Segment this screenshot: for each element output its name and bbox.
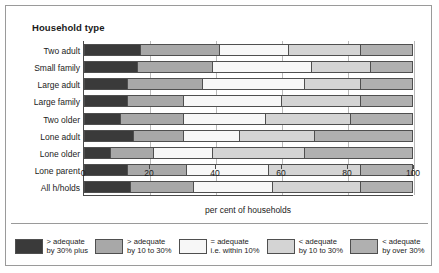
- legend-label: < adequateby over 30%: [382, 237, 424, 256]
- legend-item[interactable]: < adequateby over 30%: [350, 237, 424, 256]
- bar-segment[interactable]: [314, 130, 413, 142]
- x-axis-tick-label: 20: [144, 168, 153, 178]
- bar-segment[interactable]: [304, 147, 413, 159]
- y-axis-labels: Two adultSmall familyLarge adultLarge fa…: [10, 41, 80, 196]
- x-axis-tick-label: 0: [81, 168, 86, 178]
- bar-segment[interactable]: [370, 61, 413, 73]
- bar-segment[interactable]: [127, 78, 203, 90]
- legend-swatch: [267, 239, 295, 254]
- legend-item[interactable]: > adequateby 10 to 30%: [95, 237, 171, 256]
- bar-segment[interactable]: [84, 164, 127, 176]
- bar-segment[interactable]: [120, 113, 183, 125]
- bar-segment[interactable]: [239, 130, 315, 142]
- x-axis-tick-label: 40: [210, 168, 219, 178]
- y-axis-tick-label: Large family: [10, 97, 80, 107]
- chart-legend: > adequateby 30% plus> adequateby 10 to …: [11, 223, 428, 262]
- legend-item[interactable]: = adequatei.e. within 10%: [179, 237, 260, 256]
- bar-segment[interactable]: [360, 78, 413, 90]
- x-axis-tick-label: 80: [342, 168, 351, 178]
- bar-segment[interactable]: [288, 44, 360, 56]
- bar-segment[interactable]: [84, 113, 120, 125]
- bar-row[interactable]: [84, 95, 413, 107]
- legend-item[interactable]: > adequateby 30% plus: [15, 237, 88, 256]
- bar-row[interactable]: [84, 130, 413, 142]
- bar-segment[interactable]: [265, 113, 351, 125]
- y-axis-tick-label: Two older: [10, 115, 80, 125]
- bar-segment[interactable]: [212, 61, 311, 73]
- bar-segment[interactable]: [84, 78, 127, 90]
- bar-segment[interactable]: [127, 164, 186, 176]
- bar-segment[interactable]: [350, 113, 413, 125]
- bar-segment[interactable]: [202, 78, 304, 90]
- bar-segment[interactable]: [272, 181, 361, 193]
- bar-segment[interactable]: [304, 78, 360, 90]
- bar-segment[interactable]: [84, 61, 137, 73]
- y-axis-tick-label: Small family: [10, 63, 80, 73]
- bar-segment[interactable]: [84, 130, 133, 142]
- plot-area: [83, 41, 413, 196]
- y-axis-tick-label: Lone older: [10, 149, 80, 159]
- x-axis-tick-label: 100: [406, 168, 420, 178]
- x-axis-tick-label: 60: [276, 168, 285, 178]
- bar-segment[interactable]: [110, 147, 153, 159]
- chart-frame: Household type Two adultSmall familyLarg…: [5, 5, 432, 266]
- bar-segment[interactable]: [183, 130, 239, 142]
- bar-row[interactable]: [84, 164, 413, 176]
- bar-segment[interactable]: [219, 44, 288, 56]
- bar-segment[interactable]: [183, 113, 265, 125]
- bar-segment[interactable]: [311, 61, 370, 73]
- bar-segment[interactable]: [137, 61, 213, 73]
- bar-row[interactable]: [84, 181, 413, 193]
- bar-row[interactable]: [84, 113, 413, 125]
- page-title: Household type: [32, 22, 105, 33]
- y-axis-tick-label: Lone adult: [10, 132, 80, 142]
- y-axis-tick-label: All h/holds: [10, 183, 80, 193]
- bar-segment[interactable]: [127, 95, 183, 107]
- bar-segment[interactable]: [193, 181, 272, 193]
- y-axis-tick-label: Lone parent: [10, 166, 80, 176]
- bar-segment[interactable]: [84, 95, 127, 107]
- bar-segment[interactable]: [140, 44, 219, 56]
- bar-row[interactable]: [84, 147, 413, 159]
- bar-segment[interactable]: [84, 44, 140, 56]
- bar-segment[interactable]: [281, 95, 360, 107]
- bar-row[interactable]: [84, 78, 413, 90]
- bar-segment[interactable]: [183, 95, 282, 107]
- legend-items: > adequateby 30% plus> adequateby 10 to …: [11, 231, 428, 261]
- y-axis-tick-label: Large adult: [10, 80, 80, 90]
- chart-inner: Household type Two adultSmall familyLarg…: [10, 10, 429, 263]
- legend-label: > adequateby 30% plus: [47, 237, 88, 256]
- bar-segment[interactable]: [84, 181, 130, 193]
- legend-swatch: [350, 239, 378, 254]
- bar-segment[interactable]: [84, 147, 110, 159]
- bar-segment[interactable]: [153, 147, 212, 159]
- bar-row[interactable]: [84, 44, 413, 56]
- legend-swatch: [179, 239, 207, 254]
- bar-segment[interactable]: [360, 181, 413, 193]
- legend-label: < adequateby 10 to 30%: [299, 237, 343, 256]
- bar-segment[interactable]: [360, 44, 413, 56]
- legend-label: > adequateby 10 to 30%: [127, 237, 171, 256]
- legend-item[interactable]: < adequateby 10 to 30%: [267, 237, 343, 256]
- bar-segment[interactable]: [186, 164, 268, 176]
- bar-row[interactable]: [84, 61, 413, 73]
- bar-segment[interactable]: [133, 130, 182, 142]
- legend-swatch: [15, 239, 43, 254]
- bar-segment[interactable]: [212, 147, 304, 159]
- bar-segment[interactable]: [130, 181, 193, 193]
- bar-segment[interactable]: [360, 95, 413, 107]
- x-axis-title: per cent of households: [83, 205, 413, 215]
- legend-swatch: [95, 239, 123, 254]
- legend-label: = adequatei.e. within 10%: [211, 237, 260, 256]
- y-axis-tick-label: Two adult: [10, 46, 80, 56]
